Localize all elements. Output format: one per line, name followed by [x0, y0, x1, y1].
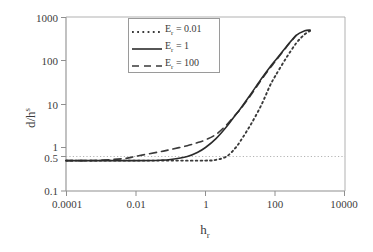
y-axis-title-sup: s: [22, 108, 32, 111]
x-tick-label-10000: 10000: [330, 198, 358, 210]
legend-label-rest-1: = 1: [173, 40, 189, 51]
x-tick-marks: [67, 191, 345, 196]
legend-item-er-1: Er = 1: [129, 38, 219, 55]
x-tick-label-100: 100: [267, 198, 284, 210]
legend-item-er-0.01: Er = 0.01: [129, 21, 219, 38]
x-tick-label-0.01: 0.01: [126, 198, 145, 210]
legend-label-er-1: Er = 1: [165, 40, 189, 53]
legend-swatch-dashed: [132, 58, 162, 70]
legend-item-er-100: Er = 100: [129, 55, 219, 72]
x-tick-label-0.0001: 0.0001: [52, 198, 82, 210]
legend-label-er-100: Er = 100: [165, 57, 199, 70]
y-tick-label-0.5: 0.5: [10, 152, 58, 164]
x-axis-title: hr: [160, 222, 250, 240]
y-axis-title: d/hs: [22, 108, 39, 128]
chart-figure: 1000 100 10 1 0.5 0.1 0.0001 0.01 1 100 …: [0, 0, 373, 252]
legend-label-er-0.01: Er = 0.01: [165, 23, 202, 36]
x-axis-title-sub: r: [207, 230, 210, 240]
legend-label-rest-2: = 100: [173, 57, 199, 68]
y-tick-label-100: 100: [10, 55, 58, 67]
y-tick-marks: [61, 18, 66, 192]
y-tick-label-1000: 1000: [10, 12, 58, 24]
legend-swatch-solid: [132, 41, 162, 53]
legend-swatch-dotted: [132, 24, 162, 36]
chart-legend: Er = 0.01 Er = 1 Er = 100: [128, 18, 220, 73]
legend-label-rest-0: = 0.01: [173, 23, 201, 34]
x-tick-label-1: 1: [203, 198, 209, 210]
y-tick-label-0.1: 0.1: [10, 185, 58, 197]
y-axis-title-base: d/h: [23, 111, 38, 128]
